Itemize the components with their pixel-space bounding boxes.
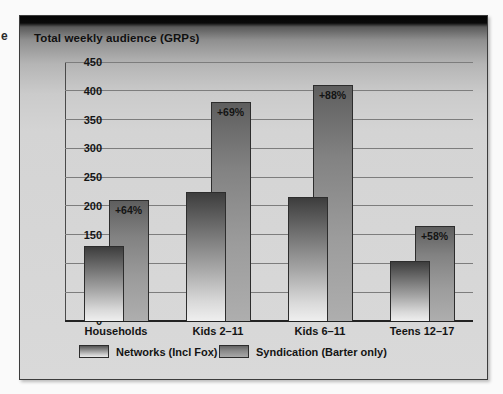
legend-label-syndication: Syndication (Barter only) bbox=[256, 346, 387, 358]
gridline bbox=[65, 62, 473, 63]
gridline bbox=[65, 119, 473, 120]
legend-swatch-networks bbox=[79, 345, 109, 358]
pct-increase-label: +88% bbox=[314, 89, 352, 101]
pct-increase-label: +64% bbox=[110, 204, 148, 216]
x-axis-category-label: Teens 12–17 bbox=[371, 325, 473, 337]
gridline bbox=[65, 90, 473, 91]
bar-networks-4 bbox=[390, 261, 430, 321]
y-axis-tick-label: 300 bbox=[68, 142, 102, 154]
x-axis-category-label: Households bbox=[65, 325, 167, 337]
plot-area: 050100150200250300350400450+64%+69%+88%+… bbox=[65, 62, 473, 321]
page-margin-text-fragment: e bbox=[1, 29, 8, 43]
y-axis-tick-label: 250 bbox=[68, 171, 102, 183]
chart-title: Total weekly audience (GRPs) bbox=[34, 32, 200, 44]
y-axis-tick-label: 450 bbox=[68, 56, 102, 68]
y-axis-tick-label: 200 bbox=[68, 200, 102, 212]
bar-networks-3 bbox=[288, 197, 328, 321]
bar-networks-1 bbox=[84, 246, 124, 321]
legend-label-networks: Networks (Incl Fox) bbox=[116, 346, 217, 358]
gridline bbox=[65, 148, 473, 149]
legend-swatch-syndication bbox=[219, 345, 249, 358]
x-axis-category-label: Kids 6–11 bbox=[269, 325, 371, 337]
x-axis-category-label: Kids 2–11 bbox=[167, 325, 269, 337]
y-axis-tick-label: 400 bbox=[68, 85, 102, 97]
pct-increase-label: +58% bbox=[416, 230, 454, 242]
y-axis-tick-label: 150 bbox=[68, 229, 102, 241]
chart-legend: Networks (Incl Fox) Syndication (Barter … bbox=[20, 345, 487, 361]
chart-panel: Total weekly audience (GRPs) 05010015020… bbox=[19, 15, 488, 380]
pct-increase-label: +69% bbox=[212, 106, 250, 118]
bar-networks-2 bbox=[186, 192, 226, 322]
gridline bbox=[65, 177, 473, 178]
y-axis-line bbox=[65, 62, 66, 321]
y-axis-tick-label: 350 bbox=[68, 114, 102, 126]
